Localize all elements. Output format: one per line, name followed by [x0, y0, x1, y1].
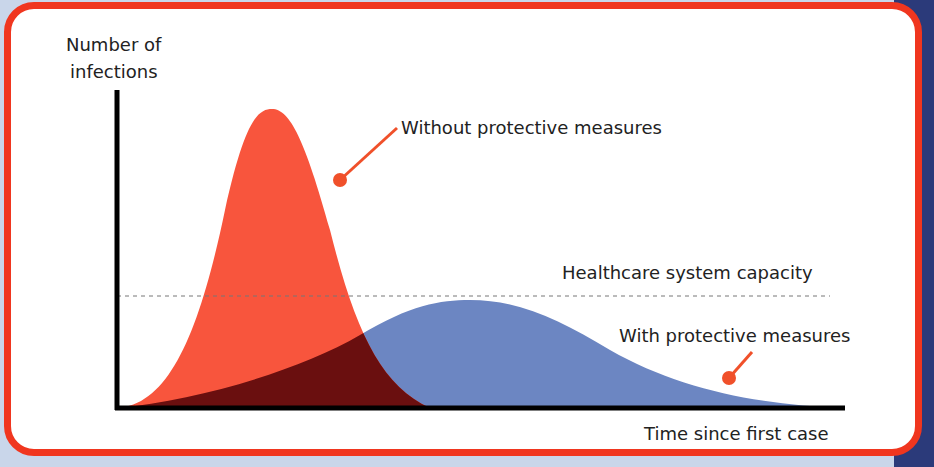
without-pointer-dot [333, 173, 347, 187]
y-axis-label-line2: infections [70, 61, 158, 82]
x-axis-label: Time since first case [644, 423, 829, 444]
with-pointer-dot [722, 371, 736, 385]
without-pointer-line [340, 128, 397, 180]
without-measures-label: Without protective measures [401, 117, 662, 138]
with-measures-label: With protective measures [619, 325, 850, 346]
capacity-label: Healthcare system capacity [562, 262, 813, 283]
y-axis-label-line1: Number of [66, 34, 161, 55]
